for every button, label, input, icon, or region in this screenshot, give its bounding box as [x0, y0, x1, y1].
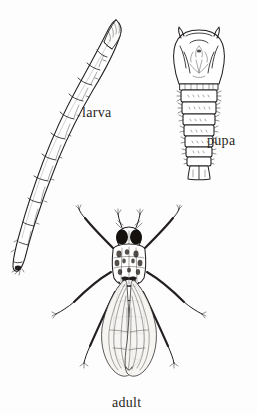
- life-cycle-figures: [0, 0, 257, 415]
- figure-pupa: [174, 27, 225, 180]
- illustration-plate: larva pupa adult: [0, 0, 257, 415]
- figure-larva: [11, 20, 121, 275]
- label-pupa: pupa: [207, 133, 235, 149]
- label-larva: larva: [82, 105, 111, 121]
- figure-adult: [52, 205, 206, 376]
- label-adult: adult: [112, 395, 142, 411]
